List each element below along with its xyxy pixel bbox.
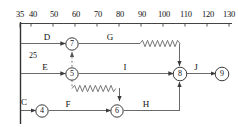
node-label-8[interactable]: 8	[178, 70, 182, 78]
axis-tick-35: 35	[16, 10, 24, 19]
axis-tick-60: 60	[72, 10, 80, 19]
activity-label-D: D	[44, 33, 51, 42]
activity-label-I: I	[124, 63, 127, 72]
axis-tick-90: 90	[138, 10, 146, 19]
network-graphics	[0, 0, 238, 127]
axis-tick-80: 80	[116, 10, 124, 19]
axis-tick-120: 120	[202, 10, 214, 19]
activity-label-C: C	[21, 98, 27, 107]
node-label-7[interactable]: 7	[70, 40, 74, 48]
axis-tick-70: 70	[94, 10, 102, 19]
axis-tick-130: 130	[223, 10, 235, 19]
activity-label-E: E	[42, 63, 48, 72]
node-label-4[interactable]: 4	[40, 107, 44, 115]
diagram-canvas: 35 40 50 60 70 80 90 100 110 120 130 D G…	[0, 0, 238, 127]
node-label-5[interactable]: 5	[70, 70, 74, 78]
float-wave-F	[72, 85, 116, 91]
activity-label-J: J	[194, 63, 198, 72]
activity-label-H: H	[143, 100, 150, 109]
activity-label-F: F	[65, 100, 70, 109]
node-label-9[interactable]: 9	[220, 70, 224, 78]
axis-tick-40: 40	[29, 10, 37, 19]
axis-tick-100: 100	[158, 10, 170, 19]
axis-tick-110: 110	[180, 10, 192, 19]
node-label-6[interactable]: 6	[115, 107, 119, 115]
axis-tick-50: 50	[50, 10, 58, 19]
dummy-links	[72, 52, 120, 101]
activity-label-G: G	[107, 33, 114, 42]
duration-note-25: 25	[29, 51, 37, 60]
float-wave-G	[140, 40, 180, 46]
